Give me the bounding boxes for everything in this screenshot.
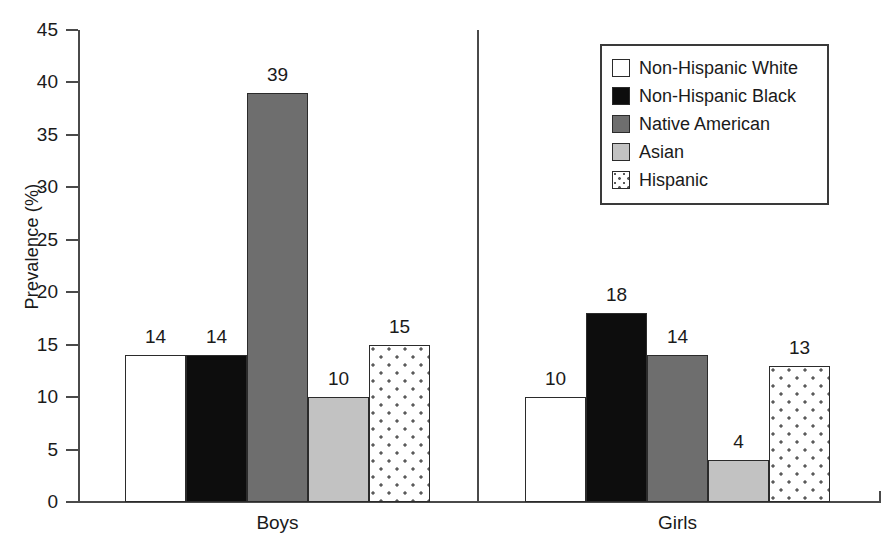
x-axis-category-label: Boys [125, 512, 430, 534]
bar-value-label: 14 [125, 327, 186, 346]
legend-swatch-icon [612, 87, 630, 105]
bar-value-label: 14 [186, 327, 247, 346]
legend-item-label: Non-Hispanic White [639, 58, 798, 78]
legend-item: Native American [612, 110, 817, 138]
bar-value-label: 18 [586, 285, 647, 304]
bar-value-label: 39 [247, 65, 308, 84]
legend-swatch-icon [612, 115, 630, 133]
bar [308, 397, 369, 502]
bar-value-label: 10 [308, 369, 369, 388]
bar [247, 93, 308, 502]
bar [525, 397, 586, 502]
legend-item: Non-Hispanic White [612, 54, 817, 82]
bar [647, 355, 708, 502]
legend-item-label: Hispanic [639, 170, 708, 190]
legend-swatch-icon [612, 143, 630, 161]
x-axis-category-label: Girls [525, 512, 830, 534]
legend-item-label: Non-Hispanic Black [639, 86, 796, 106]
bar-value-label: 10 [525, 369, 586, 388]
bar-value-label: 13 [769, 338, 830, 357]
bar [186, 355, 247, 502]
bar-value-label: 15 [369, 317, 430, 336]
legend: Non-Hispanic WhiteNon-Hispanic BlackNati… [600, 44, 829, 205]
bar [586, 313, 647, 502]
legend-item: Asian [612, 138, 817, 166]
legend-swatch-icon [612, 59, 630, 77]
legend-item: Hispanic [612, 166, 817, 194]
bar [769, 366, 830, 502]
legend-item-label: Native American [639, 114, 770, 134]
bar-value-label: 4 [708, 432, 769, 451]
bar-value-label: 14 [647, 327, 708, 346]
legend-item-label: Asian [639, 142, 684, 162]
bar-chart: Prevalence (%) 051015202530354045 141439… [0, 0, 892, 551]
bar [708, 460, 769, 502]
bar [369, 345, 430, 502]
legend-item: Non-Hispanic Black [612, 82, 817, 110]
bar [125, 355, 186, 502]
legend-swatch-icon [612, 171, 630, 189]
